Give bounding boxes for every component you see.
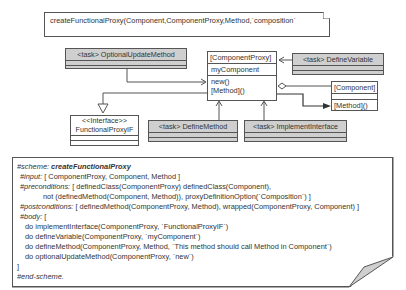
page-curl-icon: [0, 0, 406, 290]
